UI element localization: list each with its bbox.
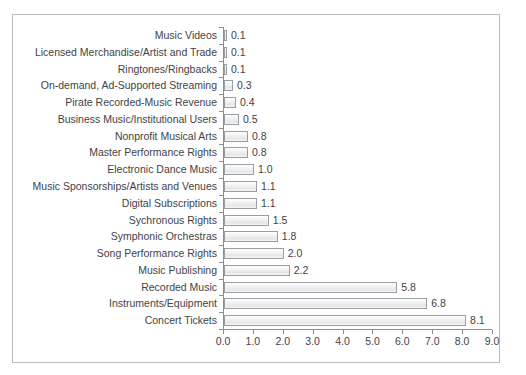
bar [224,147,248,158]
bar [224,215,269,226]
category-label: Instruments/Equipment [109,296,217,311]
bar-row: Nonprofit Musical Arts0.8 [13,128,499,145]
category-label: Music Videos [155,28,217,43]
bar [224,315,466,326]
y-tick-mark [219,312,223,313]
bar-value-label: 0.8 [252,145,267,160]
bar-value-label: 1.1 [261,179,276,194]
y-tick-mark [219,27,223,28]
chart-figure: Music Videos0.1Licensed Merchandise/Arti… [12,14,500,363]
bar-value-label: 0.8 [252,129,267,144]
bar-value-label: 0.1 [231,45,246,60]
bar [224,114,239,125]
category-label: Nonprofit Musical Arts [115,129,217,144]
y-tick-mark [219,295,223,296]
x-tick-mark [223,330,224,334]
category-label: Symphonic Orchestras [111,229,217,244]
bar [224,30,227,41]
bar [224,80,233,91]
x-tick-mark [492,330,493,334]
bar [224,64,227,75]
bar [224,231,278,242]
category-label: Sychronous Rights [129,213,217,228]
bar-value-label: 1.1 [261,196,276,211]
y-tick-mark [219,94,223,95]
bar-row: Music Sponsorships/Artists and Venues1.1 [13,178,499,195]
bar-value-label: 0.5 [243,112,258,127]
y-tick-mark [219,44,223,45]
category-label: Music Sponsorships/Artists and Venues [33,179,217,194]
x-tick-mark [253,330,254,334]
bar-value-label: 0.3 [237,78,252,93]
category-label: On-demand, Ad-Supported Streaming [41,78,217,93]
bar-row: Symphonic Orchestras1.8 [13,228,499,245]
category-label: Music Publishing [138,263,217,278]
bar-value-label: 2.0 [288,246,303,261]
x-tick-mark [432,330,433,334]
bar-value-label: 6.8 [431,296,446,311]
bar-value-label: 0.4 [240,95,255,110]
bar-row: Ringtones/Ringbacks0.1 [13,61,499,78]
y-tick-mark [219,195,223,196]
bar-value-label: 2.2 [294,263,309,278]
x-tick-mark [283,330,284,334]
category-label: Business Music/Institutional Users [58,112,217,127]
y-tick-mark [219,144,223,145]
y-tick-mark [219,61,223,62]
bar-value-label: 1.0 [258,162,273,177]
category-label: Master Performance Rights [89,145,217,160]
category-label: Song Performance Rights [97,246,217,261]
bar [224,181,257,192]
bar-row: Recorded Music5.8 [13,279,499,296]
bar-value-label: 1.5 [273,213,288,228]
bar-value-label: 5.8 [401,280,416,295]
bar-value-label: 1.8 [282,229,297,244]
bar-row: Electronic Dance Music1.0 [13,161,499,178]
bar [224,248,284,259]
bar-row: Instruments/Equipment6.8 [13,295,499,312]
bar [224,47,227,58]
x-tick-mark [462,330,463,334]
bar [224,282,397,293]
bar-row: Music Videos0.1 [13,27,499,44]
x-tick-mark [402,330,403,334]
bar-value-label: 0.1 [231,62,246,77]
bar-row: Digital Subscriptions1.1 [13,195,499,212]
category-label: Pirate Recorded-Music Revenue [65,95,217,110]
bar-value-label: 8.1 [470,313,485,328]
y-tick-mark [219,77,223,78]
bar [224,265,290,276]
y-tick-mark [219,128,223,129]
x-tick-mark [313,330,314,334]
x-tick-mark [343,330,344,334]
category-label: Ringtones/Ringbacks [118,62,217,77]
bar [224,298,427,309]
x-tick-label: 9.0 [472,335,512,347]
y-tick-mark [219,279,223,280]
bar [224,164,254,175]
bar-row: Master Performance Rights0.8 [13,144,499,161]
y-tick-mark [219,245,223,246]
bar-row: Licensed Merchandise/Artist and Trade0.1 [13,44,499,61]
bar-chart-plot: Music Videos0.1Licensed Merchandise/Arti… [13,15,499,362]
category-label: Digital Subscriptions [122,196,217,211]
category-label: Electronic Dance Music [107,162,217,177]
bar [224,198,257,209]
bar-row: On-demand, Ad-Supported Streaming0.3 [13,77,499,94]
bar-row: Concert Tickets8.1 [13,312,499,329]
bar-value-label: 0.1 [231,28,246,43]
bar-row: Pirate Recorded-Music Revenue0.4 [13,94,499,111]
y-tick-mark [219,228,223,229]
bar-row: Business Music/Institutional Users0.5 [13,111,499,128]
y-tick-mark [219,212,223,213]
y-tick-mark [219,178,223,179]
bar [224,131,248,142]
category-label: Concert Tickets [145,313,217,328]
bar-row: Song Performance Rights2.0 [13,245,499,262]
bar-row: Sychronous Rights1.5 [13,212,499,229]
y-tick-mark [219,111,223,112]
bar [224,97,236,108]
bar-row: Music Publishing2.2 [13,262,499,279]
x-tick-mark [372,330,373,334]
y-tick-mark [219,161,223,162]
